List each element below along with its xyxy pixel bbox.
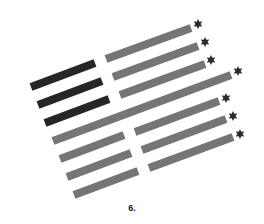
star-icon — [201, 37, 210, 47]
bars-diagram — [0, 0, 264, 224]
star-icon — [236, 129, 245, 139]
star-icon — [234, 66, 243, 76]
star-icon — [207, 55, 216, 65]
star-icon — [194, 19, 203, 29]
figure-caption: 6. — [0, 203, 264, 213]
star-icon — [222, 93, 231, 103]
star-icon — [229, 111, 238, 121]
bars-group — [30, 24, 235, 199]
